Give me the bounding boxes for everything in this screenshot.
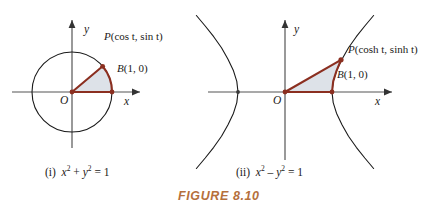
hyperbola-point-O-dot [283,90,288,95]
hyperbola-caption-exp2: 2 [281,164,285,173]
hyperbola-y-axis-arrow [282,20,289,28]
circle-point-B-dot [110,90,115,95]
hyperbola-y-axis-label: y [294,24,299,36]
hyperbola-point-B-dot [330,90,335,95]
figure-8-10: y x O P(cos t, sin t) B(1, 0) y x O P(co… [0,0,439,213]
circle-caption-exp2: 2 [88,164,92,173]
hyperbola-x-axis-label: x [375,96,380,108]
circle-point-B-label-body: (1, 0) [124,62,148,74]
circle-origin-label: O [60,95,68,107]
hyperbola-point-B-label-body: (1, 0) [344,68,368,80]
hyperbola-caption-exp1: 2 [261,164,265,173]
circle-point-P-label-body: (cos t, sin t) [111,30,163,42]
circle-caption-exp1: 2 [67,164,71,173]
circle-y-axis-label: y [84,24,89,36]
hyperbola-caption-operator: – [268,166,274,178]
hyperbola-point-P-label: P(cosh t, sinh t) [348,44,418,55]
circle-y-axis-arrow [69,20,76,28]
hyperbola-x-axis-arrow [384,89,392,96]
circle-point-O-dot [70,90,75,95]
hyperbola-origin-label: O [273,95,281,107]
hyperbola-panel-caption: (ii) x2 – y2 = 1 [236,166,303,178]
hyperbola-point-P-label-head: P [348,43,355,55]
hyperbola-point-B-label-head: B [337,68,344,80]
circle-caption-operator: + [73,166,80,178]
figure-title: FIGURE 8.10 [178,189,260,203]
hyperbola-point-B-label: B(1, 0) [337,69,368,80]
hyperbola-left-vertex-dot [236,90,240,94]
circle-caption-index: (i) [45,166,56,178]
circle-point-P-label-head: P [104,30,111,42]
hyperbola-point-P-dot [338,57,343,62]
circle-point-B-label-head: B [117,62,124,74]
circle-point-B-label: B(1, 0) [117,63,148,74]
hyperbola-panel-graphics [196,16,392,169]
circle-caption-equals: = 1 [94,166,109,178]
circle-x-axis-arrow [132,89,140,96]
circle-x-axis-label: x [124,96,129,108]
circle-point-P-label: P(cos t, sin t) [104,31,163,42]
circle-point-P-dot [100,64,105,69]
hyperbola-point-P-label-body: (cosh t, sinh t) [355,43,418,55]
hyperbola-caption-index: (ii) [236,166,250,178]
circle-panel-caption: (i) x2 + y2 = 1 [45,166,110,178]
figure-graphics [0,0,439,213]
hyperbola-caption-equals: = 1 [288,166,303,178]
